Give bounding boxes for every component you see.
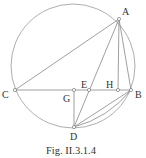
segments — [15, 19, 131, 127]
point-B — [129, 88, 132, 91]
circumcircle — [11, 4, 135, 128]
label-H: H — [106, 79, 113, 90]
label-D: D — [70, 131, 77, 142]
point-D — [72, 125, 75, 128]
figure-caption: Fig. II.3.1.4 — [46, 145, 97, 156]
geometry-figure: A B C D E G H Fig. II.3.1.4 — [0, 0, 146, 158]
label-C: C — [2, 89, 9, 100]
point-C — [13, 88, 16, 91]
segment-CA — [15, 19, 119, 90]
point-A — [117, 17, 120, 20]
segment-AB — [119, 19, 131, 90]
segment-AH — [118, 19, 119, 90]
segment-DB — [74, 90, 131, 127]
label-E: E — [81, 79, 87, 90]
point-G — [72, 88, 75, 91]
label-A: A — [122, 6, 130, 17]
point-E — [87, 88, 90, 91]
label-B: B — [135, 89, 142, 100]
point-H — [116, 88, 119, 91]
segment-AD — [74, 19, 119, 127]
label-G: G — [63, 93, 70, 104]
